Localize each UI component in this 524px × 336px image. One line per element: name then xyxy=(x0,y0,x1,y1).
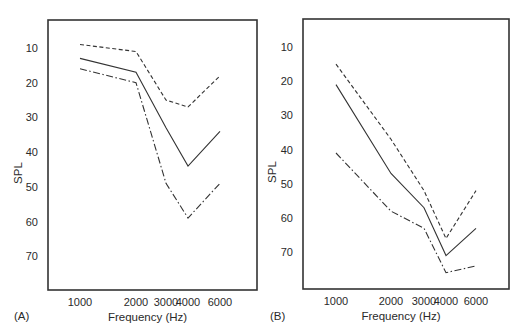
y-tick-label: 60 xyxy=(281,212,293,224)
x-tick-label: 4000 xyxy=(176,296,200,308)
x-tick-label: 2000 xyxy=(379,295,403,307)
y-tick-label: 40 xyxy=(281,144,293,156)
x-tick-label: 1000 xyxy=(324,295,348,307)
y-tick-label: 60 xyxy=(26,216,38,228)
x-tick-label: 2000 xyxy=(124,296,148,308)
y-tick-label: 40 xyxy=(26,146,38,158)
x-tick-label: 3000 xyxy=(154,296,178,308)
series-line-dash-dot xyxy=(336,153,476,273)
y-tick-label: 70 xyxy=(281,246,293,258)
figure: 1020304050607010002000300040006000SPLFre… xyxy=(0,0,524,336)
x-tick-label: 6000 xyxy=(208,296,232,308)
y-tick-label: 20 xyxy=(281,75,293,87)
x-axis-label: Frequency (Hz) xyxy=(108,311,187,323)
x-axis-label: Frequency (Hz) xyxy=(361,310,440,322)
x-tick-label: 3000 xyxy=(412,295,436,307)
series-line-dashed xyxy=(336,64,476,238)
x-tick-label: 6000 xyxy=(464,295,488,307)
series-line-solid xyxy=(80,58,220,166)
y-tick-label: 20 xyxy=(26,77,38,89)
chart-panel-a: 1020304050607010002000300040006000SPLFre… xyxy=(12,20,257,323)
plot-frame xyxy=(303,19,509,289)
y-axis-label: SPL xyxy=(12,162,24,184)
y-axis-label: SPL xyxy=(266,161,278,183)
plot-frame xyxy=(48,20,257,290)
y-tick-label: 10 xyxy=(281,41,293,53)
x-tick-label: 4000 xyxy=(434,295,458,307)
series-line-dash-dot xyxy=(80,69,220,218)
panel-label: (B) xyxy=(270,310,286,322)
y-tick-label: 30 xyxy=(281,109,293,121)
y-tick-label: 10 xyxy=(26,42,38,54)
y-tick-label: 50 xyxy=(281,178,293,190)
y-tick-label: 70 xyxy=(26,250,38,262)
chart-panel-b: 1020304050607010002000300040006000SPLFre… xyxy=(266,19,509,322)
y-tick-label: 50 xyxy=(26,181,38,193)
x-tick-label: 1000 xyxy=(68,296,92,308)
series-line-solid xyxy=(336,85,476,256)
y-tick-label: 30 xyxy=(26,111,38,123)
panel-label: (A) xyxy=(14,310,30,322)
